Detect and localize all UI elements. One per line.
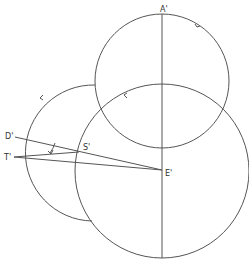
label-s: S' (83, 143, 90, 152)
line-t-e (14, 157, 162, 170)
label-t: T' (3, 153, 11, 162)
line-d-e (15, 137, 162, 170)
line-t-s (14, 152, 79, 157)
label-a: A' (160, 5, 168, 14)
geometry-diagram: A' D' T' S' E' (0, 0, 249, 262)
arrow-large-circle-icon (124, 93, 127, 98)
label-d: D' (5, 132, 13, 141)
label-e: E' (165, 169, 172, 178)
arrow-left-arc-icon (40, 95, 43, 100)
